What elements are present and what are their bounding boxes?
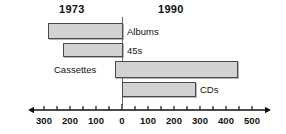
tick-label-100-left: 100	[86, 116, 106, 126]
tick-label-500-right: 500	[242, 116, 262, 126]
tick-label-zero: 0	[115, 116, 129, 126]
tick-label-100-right: 100	[138, 116, 158, 126]
x-axis	[0, 0, 286, 134]
axis-ticks	[44, 104, 252, 110]
tick-label-300-left: 300	[34, 116, 54, 126]
tick-label-200-right: 200	[164, 116, 184, 126]
tick-label-200-left: 200	[60, 116, 80, 126]
tick-label-400-right: 400	[216, 116, 236, 126]
tick-label-300-right: 300	[190, 116, 210, 126]
chart-container: 1973 1990 Albums 45s Cassettes CDs	[0, 0, 286, 134]
